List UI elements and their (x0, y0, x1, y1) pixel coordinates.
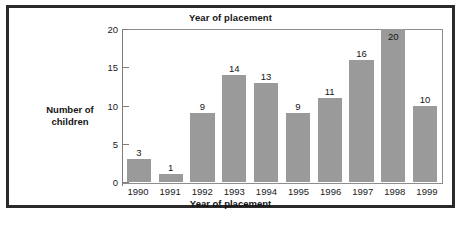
bar-slot: 10 (409, 30, 441, 182)
bar-value-label: 10 (413, 94, 437, 105)
bar[interactable]: 9 (286, 113, 310, 182)
bar-value-label: 9 (286, 101, 310, 112)
y-axis-tick-label: 15 (107, 62, 118, 73)
bar-value-label: 20 (381, 31, 405, 42)
bar[interactable]: 11 (318, 98, 342, 182)
bar-slot: 11 (314, 30, 346, 182)
chart-figure: Year of placement Number of children 051… (6, 5, 455, 208)
bar-series: 3191413911162010 (123, 30, 441, 182)
bar-value-label: 16 (349, 48, 373, 59)
bar-slot: 14 (218, 30, 250, 182)
bar[interactable]: 20 (381, 29, 405, 182)
plot-area: 05101520 3191413911162010 (122, 29, 443, 184)
y-axis-title-line-2: children (31, 116, 109, 128)
x-axis-tick-label: 1999 (411, 186, 443, 197)
x-axis-title: Year of placement (9, 198, 452, 209)
x-axis-tick-label: 1996 (315, 186, 347, 197)
y-axis-title-line-1: Number of (31, 104, 109, 116)
bar-slot: 20 (377, 30, 409, 182)
bar[interactable]: 1 (159, 174, 183, 182)
y-axis-tick-label: 5 (113, 138, 118, 149)
x-axis-tick-label: 1998 (379, 186, 411, 197)
bar[interactable]: 10 (413, 106, 437, 183)
bar-slot: 16 (346, 30, 378, 182)
x-axis-tick-label: 1992 (186, 186, 218, 197)
bar[interactable]: 14 (222, 75, 246, 182)
bar[interactable]: 13 (254, 83, 278, 182)
bar-slot: 13 (250, 30, 282, 182)
bar-slot: 3 (123, 30, 155, 182)
x-axis-tick-label: 1993 (218, 186, 250, 197)
bar-value-label: 3 (127, 147, 151, 158)
y-axis-tick-label: 10 (107, 100, 118, 111)
x-axis-tick-label: 1991 (154, 186, 186, 197)
bar-value-label: 9 (190, 101, 214, 112)
bar-value-label: 11 (318, 86, 342, 97)
x-axis-tick-label: 1990 (122, 186, 154, 197)
y-axis-title: Number of children (31, 104, 109, 127)
y-axis-tick-label: 20 (107, 24, 118, 35)
bar-slot: 9 (282, 30, 314, 182)
x-axis-tick-label: 1997 (347, 186, 379, 197)
bar[interactable]: 16 (349, 60, 373, 182)
bar[interactable]: 3 (127, 159, 151, 182)
bar-value-label: 1 (159, 162, 183, 173)
bar-slot: 1 (155, 30, 187, 182)
chart-title: Year of placement (9, 12, 452, 23)
x-axis-tick-label: 1994 (250, 186, 282, 197)
bar-value-label: 14 (222, 63, 246, 74)
bar-value-label: 13 (254, 71, 278, 82)
y-axis-tick-label: 0 (113, 177, 118, 188)
x-axis-tick-label: 1995 (283, 186, 315, 197)
bar-slot: 9 (187, 30, 219, 182)
bar[interactable]: 9 (190, 113, 214, 182)
y-axis-tick-mark (123, 182, 129, 183)
